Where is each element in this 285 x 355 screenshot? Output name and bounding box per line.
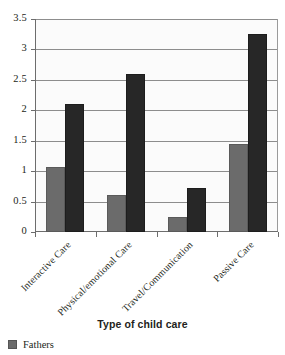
bar-chart: 00.511.522.533.5 Interactive CarePhysica… — [0, 0, 285, 355]
bar-mothers-0 — [65, 104, 84, 232]
x-axis-tick-mark — [35, 232, 36, 237]
bar-fathers-0 — [46, 167, 65, 232]
x-axis-tick-mark — [217, 232, 218, 237]
x-axis-title: Type of child care — [0, 318, 285, 330]
chart-legend: Fathers — [8, 339, 54, 350]
legend-label: Fathers — [23, 339, 54, 350]
bar-fathers-1 — [107, 195, 126, 232]
bar-fathers-3 — [229, 144, 248, 232]
x-axis-tick-mark — [96, 232, 97, 237]
x-axis-tick-mark — [157, 232, 158, 237]
bar-fathers-2 — [168, 217, 187, 232]
x-axis-tick-mark — [278, 232, 279, 237]
bar-mothers-1 — [126, 74, 145, 232]
legend-swatch-icon — [8, 340, 17, 349]
bars-layer — [0, 0, 285, 355]
bar-mothers-2 — [187, 188, 206, 232]
bar-mothers-3 — [248, 34, 267, 232]
